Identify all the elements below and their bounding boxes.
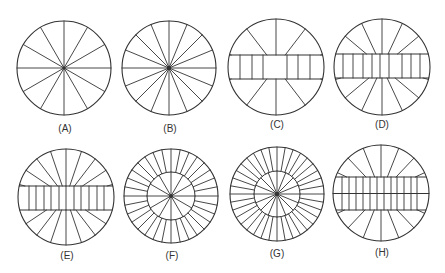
panel-label-b: (B) — [163, 124, 176, 134]
diagram-canvas — [0, 0, 445, 273]
diagram-panel-a — [17, 21, 111, 115]
diagram-panel-h — [333, 145, 429, 241]
diagram-panel-g — [230, 147, 324, 241]
diagram-panel-b — [122, 21, 216, 115]
panel-label-e: (E) — [60, 251, 73, 261]
panel-label-a: (A) — [58, 124, 71, 134]
diagram-panel-c — [228, 19, 324, 115]
diagram-panel-e — [18, 149, 114, 245]
diagram-panel-f — [124, 149, 218, 243]
diagram-panel-d — [334, 19, 430, 115]
panel-label-h: (H) — [375, 248, 389, 258]
panel-label-f: (F) — [166, 251, 179, 261]
panel-label-c: (C) — [270, 120, 284, 130]
panel-label-g: (G) — [270, 249, 284, 259]
panel-label-d: (D) — [375, 120, 389, 130]
